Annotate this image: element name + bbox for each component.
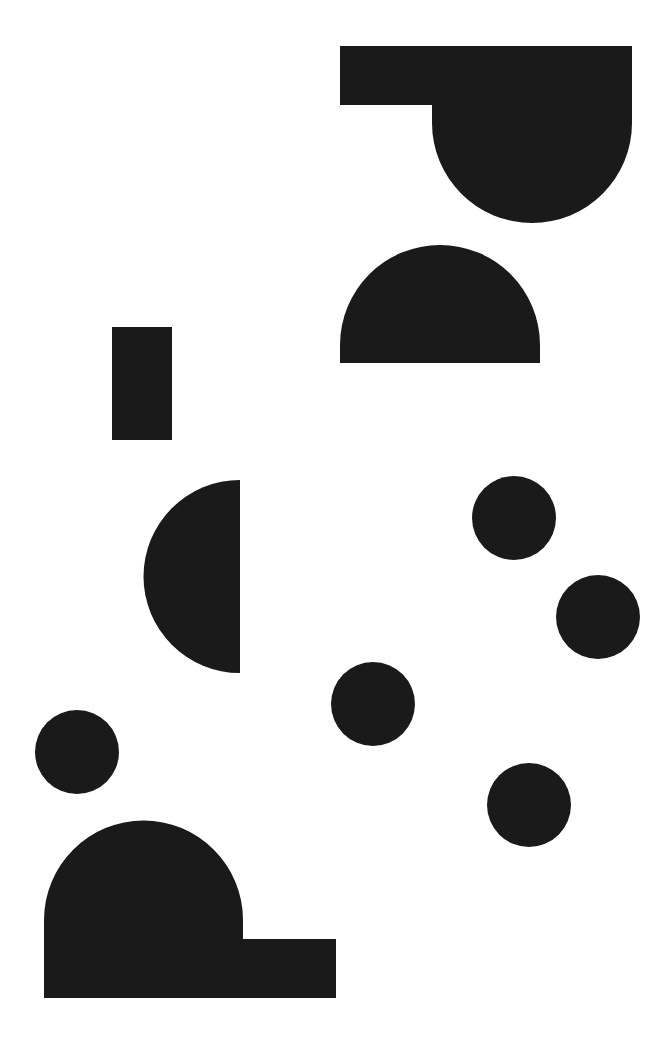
bottom-dome-with-rect [44, 821, 336, 998]
left-half-disc [143, 480, 240, 673]
circle-1 [472, 476, 556, 560]
circle-5 [35, 710, 119, 794]
top-rect-with-dome [340, 46, 632, 223]
circle-3 [331, 662, 415, 746]
shapes-canvas [0, 0, 672, 1045]
top-semicircle [340, 245, 540, 363]
circle-2 [556, 575, 640, 659]
small-rectangle [112, 327, 172, 440]
circle-4 [487, 763, 571, 847]
